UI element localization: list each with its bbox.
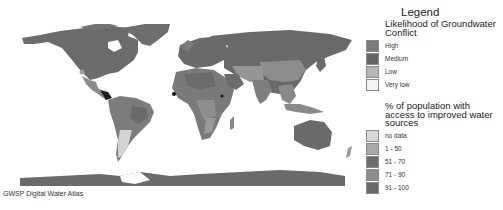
conflict-section-title: Likelihood of Groundwater Conflict bbox=[385, 20, 503, 37]
legend-label-high: High bbox=[385, 42, 398, 49]
conflict-title-line2: Conflict bbox=[385, 29, 503, 38]
swatch-1-50 bbox=[366, 143, 379, 155]
swatch-medium bbox=[366, 53, 379, 65]
south-america bbox=[108, 96, 154, 162]
legend-label-medium: Medium bbox=[385, 55, 408, 62]
legend-label-91-100: 91 - 100 bbox=[385, 184, 409, 191]
legend-label-low: Low bbox=[385, 68, 397, 75]
legend-label-no-data: no data bbox=[385, 132, 407, 139]
swatch-no-data bbox=[366, 130, 379, 142]
access-section-title: % of population with access to improved … bbox=[385, 102, 503, 128]
source-attribution: GWSP Digital Water Atlas bbox=[3, 190, 83, 197]
swatch-high bbox=[366, 40, 379, 52]
legend-label-71-90: 71 - 90 bbox=[385, 171, 405, 178]
legend-label-1-50: 1 - 50 bbox=[385, 145, 402, 152]
access-title-line3: sources bbox=[385, 119, 503, 128]
legend-label-51-70: 51 - 70 bbox=[385, 158, 405, 165]
australia bbox=[294, 120, 332, 150]
india bbox=[252, 80, 272, 104]
swatch-low bbox=[366, 66, 379, 78]
swatch-91-100 bbox=[366, 182, 379, 194]
indonesia bbox=[284, 104, 324, 114]
world-map bbox=[0, 0, 360, 200]
swatch-71-90 bbox=[366, 169, 379, 181]
legend-title: Legend bbox=[401, 6, 439, 18]
swatch-51-70 bbox=[366, 156, 379, 168]
swatch-very-low bbox=[366, 79, 379, 91]
legend-label-very-low: Very low bbox=[385, 81, 410, 88]
antarctica bbox=[20, 170, 345, 186]
